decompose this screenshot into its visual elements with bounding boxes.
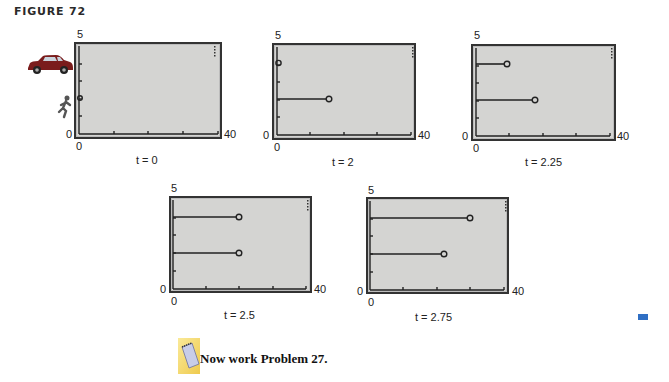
page-margin-marker	[638, 314, 648, 320]
plot-area	[0, 0, 669, 382]
practice-prompt: Now work Problem 27.	[200, 351, 328, 367]
runner-marker	[441, 251, 447, 257]
car-marker	[467, 215, 473, 221]
notepad-icon	[178, 338, 200, 374]
